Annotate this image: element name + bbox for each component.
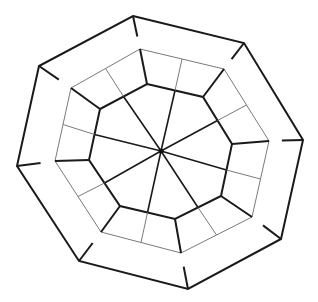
vertex-tick (184, 267, 188, 289)
vertex-tick (39, 66, 59, 80)
ring-connector (140, 49, 147, 84)
ring-connector (232, 141, 269, 144)
subdivision-line (106, 69, 124, 97)
spoke (148, 151, 162, 213)
subdivision-line (175, 59, 182, 91)
ring-connector (55, 160, 89, 161)
vertex-tick (263, 225, 281, 239)
vertex-tick (282, 140, 303, 141)
ring-connector (101, 206, 120, 232)
vertex-tick (232, 43, 244, 59)
ring-connector (221, 196, 252, 217)
subdivision-line (218, 105, 247, 121)
spoke (161, 91, 175, 152)
subdivision-line (198, 208, 217, 236)
subdivision-line (141, 213, 148, 243)
subdivision-line (227, 170, 261, 179)
subdivision-line (63, 125, 95, 135)
vertex-tick (17, 163, 41, 166)
center-hub (159, 149, 164, 154)
spoke (105, 151, 162, 183)
subdivision-line (78, 183, 105, 197)
ring-connector (203, 69, 224, 97)
octagon-web-diagram (0, 0, 318, 302)
ring-connector (71, 88, 100, 109)
ring-connector (175, 219, 181, 253)
vertex-tick (79, 243, 93, 261)
vertex-tick (133, 16, 137, 36)
spoke (161, 121, 218, 152)
